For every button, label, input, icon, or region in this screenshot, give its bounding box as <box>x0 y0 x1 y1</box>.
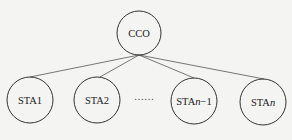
node-sta2-label: STA2 <box>85 95 109 106</box>
node-cco: CCO <box>117 11 161 55</box>
edges <box>30 55 264 79</box>
node-sta1-label: STA1 <box>18 95 42 106</box>
node-cco-label: CCO <box>128 28 150 39</box>
edge-cco-sta-n <box>139 55 264 79</box>
ellipsis-indicator: …… <box>134 91 154 102</box>
diagram-svg: CCO STA1 STA2 …… STAn−1 STAn <box>0 0 292 140</box>
edge-cco-sta1 <box>30 55 139 77</box>
node-sta2: STA2 <box>74 77 120 123</box>
node-sta-n-minus-1: STAn−1 <box>171 78 217 124</box>
network-topology-diagram: CCO STA1 STA2 …… STAn−1 STAn <box>0 0 292 140</box>
edge-cco-sta-n-minus-1 <box>139 55 194 78</box>
node-sta-n: STAn <box>240 79 286 125</box>
node-sta-n-label: STAn <box>251 97 275 108</box>
edge-cco-sta2 <box>100 55 139 77</box>
node-sta1: STA1 <box>7 77 53 123</box>
node-sta-n-minus-1-label: STAn−1 <box>176 96 211 107</box>
